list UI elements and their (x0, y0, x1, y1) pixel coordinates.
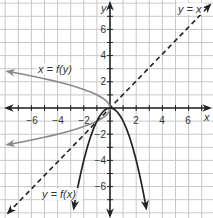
identity-label: y = x (177, 3, 202, 15)
x-tick-labels: −6 −4 −2 2 4 6 (26, 115, 191, 126)
y-tick-label: −2 (95, 129, 107, 140)
identity-line (8, 5, 210, 213)
x-axis-label: x (203, 111, 210, 123)
x-tick-label: −6 (26, 115, 38, 126)
y-axis-label: y (100, 2, 108, 14)
y-tick-label: 4 (100, 50, 106, 61)
graph-figure: −6 −4 −2 2 4 6 6 4 2 −2 −4 −6 y x x = f(… (0, 0, 213, 218)
x-tick-label: 2 (133, 115, 139, 126)
y-tick-label: 2 (100, 76, 106, 87)
coordinate-plane: −6 −4 −2 2 4 6 6 4 2 −2 −4 −6 y x x = f(… (0, 0, 213, 218)
inverse-label: x = f(y) (37, 63, 72, 75)
y-tick-label: −4 (95, 155, 107, 166)
function-label: y = f(x) (41, 188, 76, 200)
x-tick-label: −4 (52, 115, 64, 126)
y-tick-label: 6 (100, 24, 106, 35)
x-tick-label: 6 (185, 115, 191, 126)
x-tick-label: 4 (159, 115, 165, 126)
y-tick-label: −6 (95, 181, 107, 192)
